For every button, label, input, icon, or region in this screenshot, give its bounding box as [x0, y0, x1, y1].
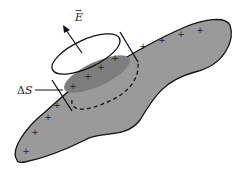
- gauss-pillbox-diagram: + + + + + + + + + + + + E → Δ S: [0, 0, 244, 179]
- conductor-surface: [15, 19, 231, 162]
- charge: +: [139, 41, 147, 51]
- charge: +: [31, 127, 39, 137]
- area-label: S: [25, 84, 33, 97]
- charge: +: [196, 25, 204, 35]
- charge: +: [69, 81, 77, 91]
- charge: +: [44, 112, 52, 122]
- field-vector-arrow: →: [75, 6, 82, 15]
- charge: +: [177, 29, 185, 39]
- charge: +: [53, 100, 61, 110]
- charge: +: [97, 62, 105, 72]
- charge: +: [111, 53, 119, 63]
- field-arrow-head-icon: [63, 25, 70, 33]
- delta-symbol: Δ: [17, 84, 25, 97]
- charge: +: [158, 35, 166, 45]
- charge: +: [84, 71, 92, 81]
- charge: +: [22, 146, 30, 156]
